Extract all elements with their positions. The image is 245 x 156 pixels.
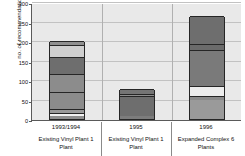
bar-segment	[50, 41, 84, 45]
bar-segment	[50, 92, 84, 110]
group-label: Expanded Complex 6 Plants	[173, 136, 239, 151]
bar-segment	[190, 96, 224, 101]
bar-1996	[189, 17, 225, 120]
bar-segment	[120, 94, 154, 96]
bar-1993-1994	[49, 42, 85, 120]
bar-segment	[50, 116, 84, 119]
gridline-horizontal	[32, 2, 241, 3]
group-label-row: Existing Vinyl Plant 1 PlantExisting Vin…	[0, 133, 245, 156]
bar-segment	[190, 44, 224, 50]
bar-segment	[190, 86, 224, 96]
gridline-vertical	[172, 4, 173, 120]
category-separator	[101, 122, 102, 156]
category-label: 1995	[129, 124, 142, 130]
bar-segment	[50, 57, 84, 75]
y-axis-tick-label: 300	[8, 1, 28, 7]
category-label: 1993/1994	[52, 124, 80, 130]
y-axis-tick-label: 50	[8, 99, 28, 105]
bar-segment	[120, 89, 154, 94]
y-axis-tick-label: 150	[8, 60, 28, 66]
plot-area	[31, 4, 241, 121]
category-separator	[171, 122, 172, 156]
bar-segment	[120, 96, 154, 116]
bar-segment	[120, 116, 154, 119]
gridline-vertical	[102, 4, 103, 120]
y-axis-tick-label: 100	[8, 79, 28, 85]
bar-1995	[119, 90, 155, 120]
bar-segment	[50, 109, 84, 113]
chart-figure: no. of recommendations 05010015020025030…	[0, 0, 245, 156]
bar-segment	[190, 50, 224, 86]
bar-segment	[190, 16, 224, 44]
y-axis-tick-label: 0	[8, 118, 28, 124]
bar-segment	[50, 45, 84, 57]
bar-segment	[50, 113, 84, 116]
y-axis-tick-label: 200	[8, 40, 28, 46]
group-label: Existing Vinyl Plant 1 Plant	[33, 136, 99, 151]
category-label-row: 1993/199419951996	[31, 122, 241, 132]
y-axis-tick-label: 250	[8, 21, 28, 27]
bar-segment	[50, 74, 84, 92]
category-label: 1996	[199, 124, 212, 130]
bar-segment	[190, 100, 224, 119]
group-label: Existing Vinyl Plant 1 Plant	[103, 136, 169, 151]
